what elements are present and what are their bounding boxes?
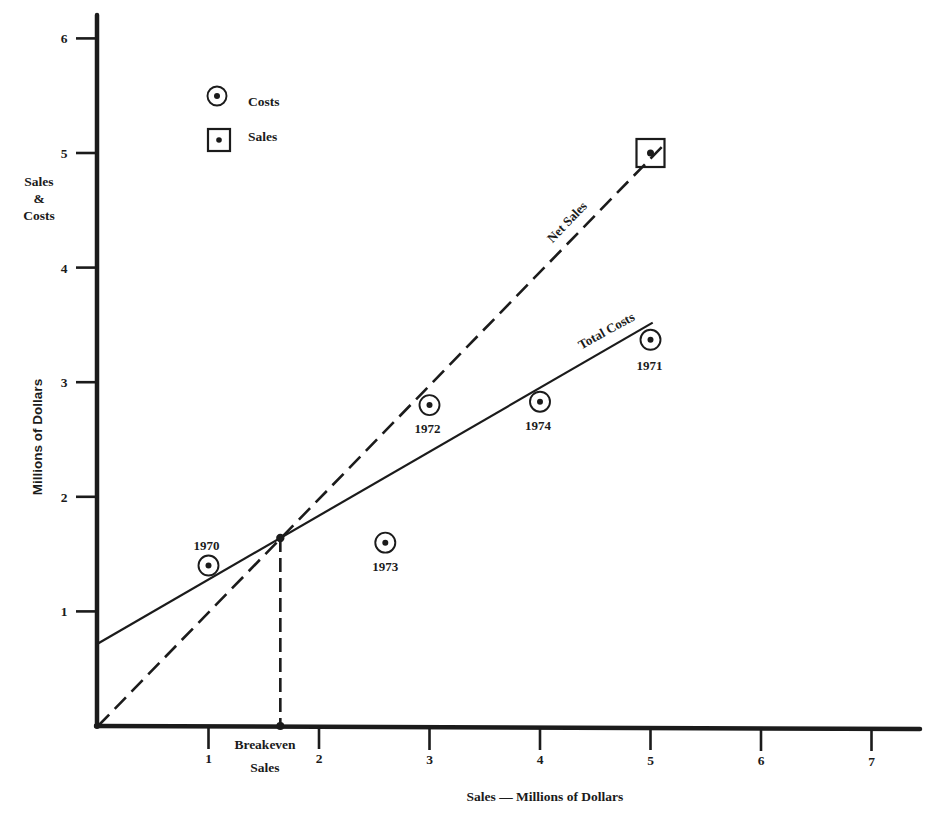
- total-costs-line-label: Total Costs: [576, 309, 638, 352]
- data-point-sales: [637, 139, 665, 167]
- boxed-dot-icon: [208, 129, 230, 151]
- x-tick: 1: [205, 727, 212, 766]
- y-axis-title-line: &: [33, 191, 44, 206]
- data-point-costs: 1970: [194, 538, 220, 576]
- x-tick-label: 4: [537, 752, 544, 767]
- x-tick: 3: [426, 728, 433, 767]
- y-axis-title-line: Sales: [24, 174, 53, 189]
- x-axis: [96, 726, 920, 729]
- data-point-costs: 1973: [372, 533, 399, 574]
- x-ticks: 1 2 3 4 5 6 7: [205, 727, 875, 769]
- x-tick: 5: [647, 728, 654, 768]
- legend-item-sales: Sales: [208, 129, 277, 151]
- y-tick: 3: [61, 375, 97, 390]
- x-tick-label: 2: [316, 751, 323, 766]
- data-point-label: 1971: [637, 358, 663, 373]
- data-point-label: 1972: [415, 421, 441, 436]
- circled-dot-icon: [208, 87, 227, 106]
- data-point-label: 1974: [525, 418, 552, 433]
- y-axis-title-stacked: Sales & Costs: [23, 174, 55, 223]
- data-point-label: 1970: [194, 538, 220, 553]
- y-tick: 5: [61, 146, 97, 161]
- y-tick-label: 6: [61, 31, 68, 46]
- data-point-label: 1973: [372, 559, 399, 574]
- x-tick: 4: [537, 728, 544, 767]
- data-point-costs: 1971: [637, 330, 663, 373]
- y-tick: 2: [61, 490, 97, 505]
- data-point-costs: 1974: [525, 392, 552, 433]
- total-costs-line: [98, 323, 653, 644]
- x-tick: 7: [868, 729, 875, 769]
- y-axis-title-rotated: Millions of Dollars: [30, 379, 45, 495]
- x-tick-label: 1: [205, 751, 212, 766]
- y-tick: 4: [61, 261, 97, 276]
- y-tick-label: 5: [61, 146, 68, 161]
- data-point-costs: 1972: [415, 395, 441, 436]
- legend: Costs Sales: [208, 87, 280, 152]
- y-tick-label: 3: [61, 375, 68, 390]
- legend-label: Costs: [248, 94, 280, 109]
- y-axis-title-line: Costs: [23, 208, 55, 223]
- x-tick-label: 6: [758, 753, 765, 768]
- y-ticks: 1 2 3 4 5 6: [61, 31, 97, 619]
- y-tick: 6: [61, 31, 97, 46]
- net-sales-line: [98, 142, 667, 726]
- breakeven-axis-point: [276, 722, 284, 730]
- breakeven-label-line2: Sales: [250, 760, 279, 775]
- breakeven-annotation: Breakeven Sales: [234, 534, 296, 775]
- x-tick-label: 7: [868, 754, 875, 769]
- legend-item-costs: Costs: [208, 87, 280, 110]
- net-sales-line-label: Net Sales: [544, 198, 590, 245]
- breakeven-label-line1: Breakeven: [234, 737, 296, 752]
- x-tick: 2: [316, 727, 323, 766]
- y-tick-label: 2: [61, 490, 68, 505]
- breakeven-point: [276, 534, 284, 542]
- x-tick-label: 5: [647, 753, 654, 768]
- x-tick-label: 3: [426, 752, 433, 767]
- origin-point: [94, 723, 100, 729]
- breakeven-chart: 1 2 3 4 5 6 1 2: [0, 0, 943, 818]
- x-axis-title: Sales — Millions of Dollars: [467, 789, 624, 804]
- sales-series: [637, 139, 665, 167]
- y-tick: 1: [61, 604, 97, 619]
- y-tick-label: 4: [61, 261, 68, 276]
- x-tick: 6: [758, 729, 765, 768]
- y-tick-label: 1: [61, 604, 68, 619]
- legend-label: Sales: [248, 129, 277, 144]
